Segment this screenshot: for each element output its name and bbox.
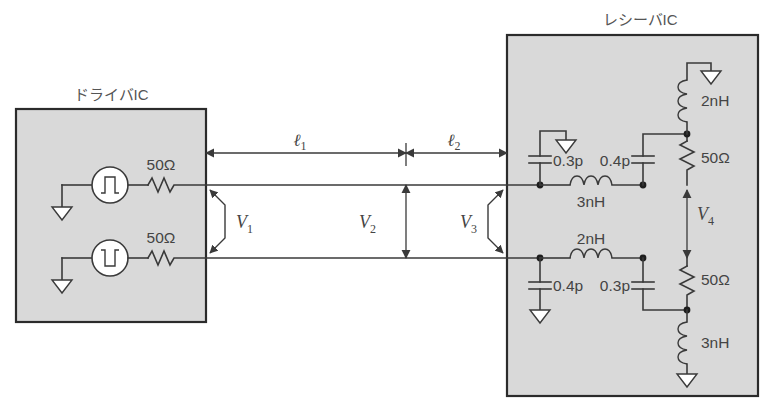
voltage-label-v2: V2: [359, 212, 376, 236]
inductor-top-series-label: 3nH: [577, 193, 605, 210]
voltage-subscript-v4: 4: [708, 214, 714, 228]
driver-ic-box: [16, 109, 206, 322]
driver-ic-title: ドライバIC: [74, 86, 149, 103]
schematic-svg: ドライバIC レシーバIC 50Ω 50Ω ℓ1 ℓ2 V1 V2 V3 V4 …: [0, 0, 772, 414]
driver-top-resistor-label: 50Ω: [147, 156, 176, 173]
dimension-symbol-l2: ℓ: [447, 131, 454, 150]
voltage-bracket-v1: [210, 190, 225, 253]
pulse-source-inverted: [92, 240, 128, 276]
inductor-top-supply-label: 2nH: [701, 92, 729, 109]
dimension-symbol-l1: ℓ: [293, 131, 300, 150]
cap-top-out-label: 0.4p: [600, 152, 630, 169]
cap-bot-in-label: 0.4p: [553, 277, 583, 294]
resistor-bottom-label: 50Ω: [701, 271, 730, 288]
dimension-label-l2: ℓ2: [447, 131, 460, 153]
dimension-label-l1: ℓ1: [293, 131, 306, 153]
pulse-source-noninverted: [92, 167, 128, 203]
resistor-top-label: 50Ω: [701, 149, 730, 166]
voltage-subscript-v1: 1: [247, 222, 253, 236]
dimension-subscript-l1: 1: [301, 139, 307, 153]
driver-bottom-resistor-label: 50Ω: [147, 229, 176, 246]
voltage-subscript-v3: 3: [471, 222, 477, 236]
inductor-bottom-ground-label: 3nH: [701, 334, 729, 351]
cap-bot-out-label: 0.3p: [600, 277, 630, 294]
cap-top-in-label: 0.3p: [553, 152, 583, 169]
voltage-label-v1: V1: [236, 212, 253, 236]
voltage-bracket-v3: [488, 190, 503, 253]
voltage-label-v3: V3: [460, 212, 477, 236]
receiver-ic-title: レシーバIC: [603, 11, 678, 28]
circuit-diagram-canvas: ドライバIC レシーバIC 50Ω 50Ω ℓ1 ℓ2 V1 V2 V3 V4 …: [0, 0, 772, 414]
inductor-bottom-series-label: 2nH: [577, 230, 605, 247]
dimension-subscript-l2: 2: [455, 139, 461, 153]
voltage-subscript-v2: 2: [370, 222, 376, 236]
